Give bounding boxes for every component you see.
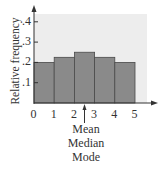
annotation-median: Median	[66, 136, 106, 150]
x-tick-label: 4	[111, 108, 117, 120]
y-axis-arrow-icon	[32, 5, 37, 12]
y-tick-label: .3	[22, 35, 31, 47]
y-axis-label: Relative frequency	[9, 16, 21, 106]
x-tick-label: 2	[71, 108, 77, 120]
histogram-bar	[115, 62, 135, 103]
histogram-bar	[95, 57, 115, 103]
histogram-bar	[74, 52, 94, 103]
x-tick-label: 1	[51, 108, 57, 120]
x-tick-label: 5	[132, 108, 138, 120]
y-tick-label: .1	[22, 76, 31, 88]
x-tick-label: 0	[31, 108, 37, 120]
x-axis-arrow-icon	[151, 101, 158, 106]
annotation-mode: Mode	[66, 150, 106, 164]
histogram-bar	[54, 57, 74, 103]
annotation-arrow-icon	[83, 104, 87, 110]
x-tick-label: 3	[91, 108, 97, 120]
y-tick-label: .4	[22, 15, 31, 27]
y-tick-label: .2	[22, 55, 31, 67]
annotation-mean: Mean	[66, 122, 106, 136]
